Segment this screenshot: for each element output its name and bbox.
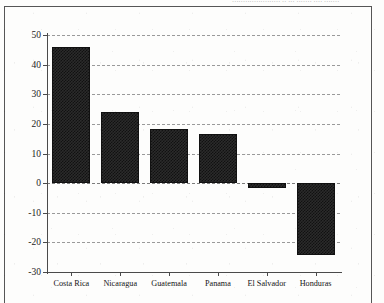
y-axis-tick	[43, 65, 48, 66]
y-axis-tick	[43, 242, 48, 243]
gridline	[47, 154, 340, 155]
x-axis-label: Costa Rica	[54, 279, 90, 288]
x-axis-label: Guatemala	[151, 279, 186, 288]
x-axis-tick	[169, 272, 170, 276]
y-axis-label: 50	[32, 30, 42, 40]
y-axis-tick	[43, 183, 48, 184]
y-axis-label: 40	[32, 60, 42, 70]
y-axis-label: -30	[28, 267, 41, 277]
y-axis-tick	[43, 35, 48, 36]
bar-nicaragua	[101, 112, 139, 183]
bar-chart-plot-area: 50403020100-10-20-30 Costa RicaNicaragua…	[47, 35, 340, 272]
bar-el-salvador	[248, 183, 286, 188]
gridline	[47, 124, 340, 125]
gridline	[47, 272, 340, 273]
y-axis-tick	[43, 213, 48, 214]
y-axis-tick	[43, 272, 48, 273]
y-axis-label: 0	[36, 178, 41, 188]
x-axis-tick	[120, 272, 121, 276]
x-axis-label: Nicaragua	[103, 279, 137, 288]
x-axis-tick	[316, 272, 317, 276]
y-axis-tick	[43, 124, 48, 125]
gridline	[47, 94, 340, 95]
y-axis-tick	[43, 154, 48, 155]
y-axis-label: 20	[32, 119, 42, 129]
x-axis-tick	[71, 272, 72, 276]
scanned-page: ······················ ·· ··· ······· ··…	[0, 0, 384, 303]
x-axis-label: El Salvador	[248, 279, 286, 288]
x-axis-label: Honduras	[300, 279, 332, 288]
y-axis-tick	[43, 94, 48, 95]
x-axis-label: Panama	[205, 279, 231, 288]
x-axis-tick	[218, 272, 219, 276]
page-bleed-text: ······················ ·· ··· ······· ··…	[232, 0, 384, 5]
x-axis-tick	[267, 272, 268, 276]
y-axis-label: 10	[32, 149, 42, 159]
bar-costa-rica	[52, 47, 90, 183]
bar-honduras	[297, 183, 335, 255]
y-axis-label: 30	[32, 89, 42, 99]
bar-guatemala	[150, 129, 188, 183]
gridline	[47, 65, 340, 66]
gridline	[47, 35, 340, 36]
y-axis-label: -10	[28, 208, 41, 218]
y-axis-label: -20	[28, 237, 41, 247]
bar-panama	[199, 134, 237, 183]
